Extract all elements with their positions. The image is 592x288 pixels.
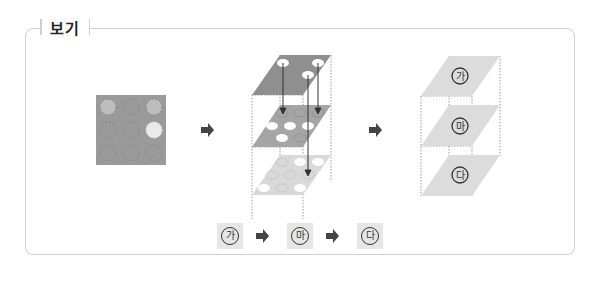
layer-label-ma: 마 xyxy=(291,227,309,245)
svg-text:가: 가 xyxy=(456,71,465,82)
svg-text:마: 마 xyxy=(456,121,465,132)
grid-panel xyxy=(96,95,166,165)
layer-stack xyxy=(252,55,331,219)
sequence-chip-3: 다 xyxy=(357,223,383,249)
sequence-chip-2: 마 xyxy=(287,223,313,249)
svg-text:다: 다 xyxy=(456,170,465,181)
layer-label-da: 다 xyxy=(361,227,379,245)
layer-label-ga: 가 xyxy=(221,227,239,245)
sequence-chip-1: 가 xyxy=(217,223,243,249)
